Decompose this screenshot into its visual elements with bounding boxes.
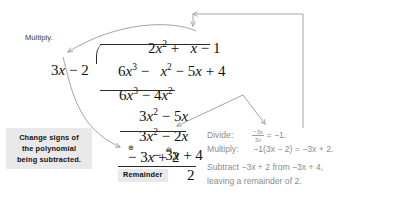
rule-1	[100, 90, 175, 91]
divide-fraction: −3x 3x	[252, 128, 264, 143]
divide-keyword: Divide:	[207, 130, 233, 140]
step3-minus-3x: − 3x +	[128, 150, 167, 165]
figure-canvas: Multiply. 2x2 + x − 1 3x − 2 6x3 − x2 − …	[0, 0, 411, 206]
arrow-difference-to-divide	[177, 95, 265, 126]
remainder-value: 2	[187, 168, 195, 183]
explanation-subtract-line1: Subtract −3x + 2 from −3x + 4,	[207, 162, 323, 173]
step3-const-2: 2	[172, 150, 180, 165]
multiply-label: Multiply.	[25, 33, 53, 42]
work-line-step3-signs: ⊕ − 3x + ⊖ 2	[128, 145, 208, 165]
remainder-tag: Remainder	[118, 169, 168, 182]
rule-3	[118, 166, 196, 167]
divide-equals: =	[267, 130, 272, 140]
multiply-keyword: Multiply:	[207, 144, 239, 154]
explanation-subtract-line2: leaving a remainder of 2.	[207, 176, 302, 187]
explanation-multiply: Multiply: −1(3x − 2) = −3x + 2.	[207, 144, 333, 155]
rule-2	[120, 131, 186, 132]
callout-change-signs: Change signs of the polynomial being sub…	[6, 128, 92, 169]
callout-line-1: Change signs of	[11, 132, 87, 143]
division-vinculum	[100, 44, 210, 45]
divisor-coeff: 3	[51, 62, 59, 78]
multiply-expression: −1(3x − 2) = −3x + 2.	[253, 144, 333, 154]
divide-result: −1.	[274, 130, 286, 140]
explanation-divide: Divide: −3x 3x = −1.	[207, 128, 286, 143]
divide-numerator: −3x	[252, 128, 264, 135]
callout-line-2: the polynomial	[11, 143, 87, 154]
divisor-expression: 3x − 2	[36, 48, 89, 93]
divide-denominator: 3x	[252, 135, 264, 143]
divisor-const: 2	[81, 62, 89, 78]
callout-line-3: being subtracted.	[11, 154, 87, 165]
